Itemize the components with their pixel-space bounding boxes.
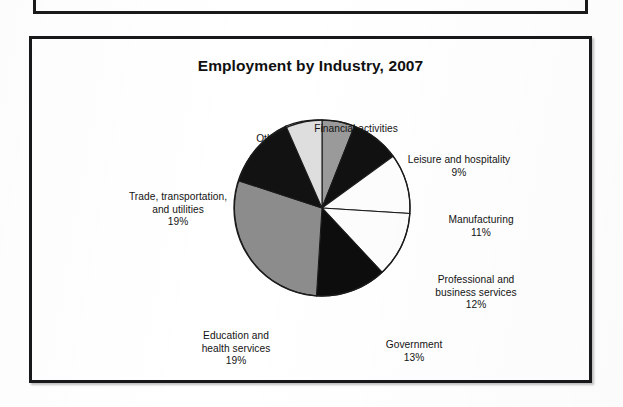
pie-label-manufacturing-name: Manufacturing [448,214,513,225]
chart-figure-frame: Employment by Industry, 2007 [29,36,592,383]
pie-label-financial-name: Financial activities [314,123,398,134]
pie-label-trade: Trade, transportation, and utilities 19% [107,179,249,241]
pie-label-education: Education and health services 19% [172,318,300,380]
top-partial-frame [33,0,588,14]
pie-label-manufacturing-pct: 11% [420,227,542,239]
pie-label-trade-name: Trade, transportation, and utilities [129,191,227,214]
pie-label-government-pct: 13% [359,352,469,364]
pie-label-government: Government 13% [359,327,469,377]
pie-label-other-name: Other [256,133,282,144]
pie-label-government-name: Government [386,339,443,350]
pie-label-professional-pct: 12% [412,299,540,311]
pie-label-leisure: Leisure and hospitality 9% [384,142,534,192]
pie-label-professional: Professional and business services 12% [412,262,540,324]
chart-inner: Employment by Industry, 2007 [32,39,589,380]
pie-label-leisure-name: Leisure and hospitality [408,154,511,165]
pie-label-education-name: Education and health services [202,330,271,353]
pie-label-manufacturing: Manufacturing 11% [420,202,542,252]
pie-label-leisure-pct: 9% [384,167,534,179]
chart-title: Employment by Industry, 2007 [32,57,589,75]
pie-label-trade-pct: 19% [107,216,249,228]
pie-label-education-pct: 19% [172,355,300,367]
pie-label-professional-name: Professional and business services [435,274,516,297]
